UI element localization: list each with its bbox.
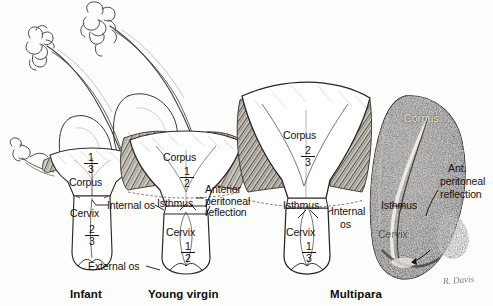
callout-internal-os-right-line1: Internal (331, 206, 365, 218)
uterus-comparison-figure: 1 3 Corpus Cervix 2 3 Infant Corpus 1 2 … (0, 0, 493, 306)
multipara-corpus-label: Corpus (283, 130, 316, 142)
young-virgin-cervix-fraction: 1 2 (181, 241, 195, 263)
specimen-corpus-label: Corpus (404, 112, 439, 124)
infant-corpus-numerator: 1 (84, 152, 98, 162)
young-virgin-corpus-fraction: 1 2 (180, 166, 194, 188)
infant-corpus-fraction: 1 3 (84, 152, 98, 174)
caption-multipara: Multipara (330, 288, 382, 300)
caption-infant: Infant (70, 288, 102, 300)
young-virgin-corpus-numerator: 1 (180, 166, 194, 176)
multipara-isthmus-label: Isthmus (283, 200, 319, 212)
anatomical-line-art (0, 0, 493, 306)
infant-cervix-label: Cervix (70, 208, 99, 220)
callout-ant-peritoneal-line2: peritoneal (440, 176, 485, 188)
infant-corpus-label: Corpus (69, 177, 102, 189)
callout-external-os: External os (88, 261, 139, 273)
multipara-cervix-numerator: 1 (302, 241, 316, 251)
specimen-isthmus-label: Isthmus (381, 200, 417, 212)
multipara-cervix-fraction: 1 3 (302, 241, 316, 263)
multipara-corpus-denominator: 3 (301, 157, 315, 167)
multipara-corpus-fraction: 2 3 (301, 145, 315, 167)
specimen-cervix-label: Cervix (378, 228, 408, 240)
infant-cervix-fraction: 2 3 (85, 224, 99, 246)
multipara-cervix-label: Cervix (286, 227, 315, 239)
artist-signature: R. Davis (443, 274, 475, 286)
callout-ant-peritoneal-line1: Ant. (448, 163, 466, 175)
callout-internal-os-left: Internal os (107, 200, 155, 212)
callout-ant-peritoneal-line3: reflection (440, 189, 482, 201)
young-virgin-corpus-denominator: 2 (180, 178, 194, 188)
callout-anterior-peritoneal-reflection: Anterior peritoneal reflection (205, 184, 257, 219)
multipara-cervix-denominator: 3 (302, 253, 316, 263)
infant-cervix-denominator: 3 (85, 236, 99, 246)
young-virgin-cervix-label: Cervix (166, 227, 195, 239)
infant-cervix-numerator: 2 (85, 224, 99, 234)
right-fimbriae (81, 2, 117, 56)
callout-internal-os-right-line2: os (340, 219, 351, 231)
young-virgin-corpus-label: Corpus (163, 152, 196, 164)
young-virgin-cervix-numerator: 1 (181, 241, 195, 251)
young-virgin-isthmus-label: Isthmus (157, 198, 193, 210)
caption-young-virgin: Young virgin (148, 288, 219, 300)
multipara-corpus-numerator: 2 (301, 145, 315, 155)
infant-corpus-denominator: 3 (84, 164, 98, 174)
young-virgin-cervix-denominator: 2 (181, 253, 195, 263)
